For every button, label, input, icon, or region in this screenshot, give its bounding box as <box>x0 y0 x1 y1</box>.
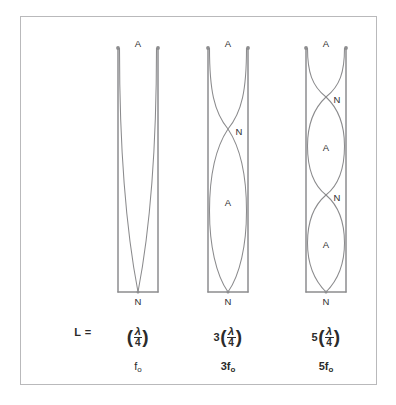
antinode-label-3: A <box>323 239 330 250</box>
wave-curve-positive <box>210 48 247 292</box>
wave-curve-positive <box>308 48 345 292</box>
node-point <box>325 291 328 294</box>
wave-curve-negative <box>210 48 247 292</box>
antinode-label-1: A <box>225 38 232 49</box>
antinode-label-1: A <box>323 38 330 49</box>
node-label-2: N <box>334 192 341 203</box>
tube-third-harmonic: A N A N <box>206 38 250 307</box>
antinode-label-2: A <box>225 197 232 208</box>
antinode-label-1: A <box>135 38 142 49</box>
node-point <box>137 291 140 294</box>
node-point <box>227 291 230 294</box>
wave-curve-negative <box>138 48 157 292</box>
node-label-2: N <box>225 296 232 307</box>
node-label-1: N <box>334 94 341 105</box>
antinode-label-2: A <box>323 142 330 153</box>
tube-fifth-harmonic: A N A N A N <box>304 38 348 307</box>
standing-wave-diagram: A N A N A N <box>0 0 396 405</box>
wave-curve-positive <box>120 48 139 292</box>
tube-fundamental: A N <box>116 38 160 307</box>
node-label-1: N <box>236 126 243 137</box>
wave-curve-negative <box>308 48 345 292</box>
node-label-1: N <box>135 296 142 307</box>
figure-root: A N A N A N <box>0 0 396 405</box>
node-label-3: N <box>323 296 330 307</box>
